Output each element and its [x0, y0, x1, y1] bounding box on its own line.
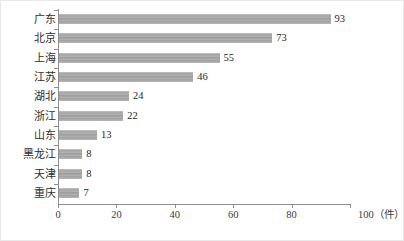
x-axis-tick-label: 40	[170, 209, 181, 221]
bar-value-label: 46	[197, 71, 208, 83]
category-label: 黑龙江	[23, 148, 56, 160]
bar-value-label: 73	[276, 32, 287, 44]
category-label: 天津	[34, 168, 56, 180]
x-axis-tick	[233, 204, 234, 208]
bar	[59, 33, 272, 43]
category-label: 江苏	[34, 71, 56, 83]
plot-area: 100（件） 020406080广东93北京73上海55江苏46湖北24浙江22…	[1, 1, 404, 241]
y-axis-tick	[54, 126, 58, 127]
bar-value-label: 22	[127, 110, 138, 122]
x-axis-tick	[58, 204, 59, 208]
y-axis-tick	[54, 87, 58, 88]
x-axis-tick-label: 60	[228, 209, 239, 221]
category-label: 广东	[34, 13, 56, 25]
x-axis-tick-label: 20	[111, 209, 122, 221]
category-label: 北京	[34, 32, 56, 44]
y-axis-tick	[54, 49, 58, 50]
x-axis-tick	[292, 204, 293, 208]
bar-value-label: 93	[335, 13, 346, 25]
x-axis-tick	[116, 204, 117, 208]
bar	[59, 14, 331, 24]
category-label: 上海	[34, 52, 56, 64]
bar	[59, 91, 129, 101]
bar-value-label: 8	[86, 168, 91, 180]
y-axis-tick	[54, 145, 58, 146]
x-axis-unit-label: 100（件）	[358, 209, 404, 221]
bar	[59, 149, 82, 159]
x-axis-line	[58, 204, 350, 205]
category-label: 湖北	[34, 90, 56, 102]
category-label: 山东	[34, 129, 56, 141]
y-axis-tick	[54, 184, 58, 185]
y-axis-tick	[54, 29, 58, 30]
bar	[59, 53, 220, 63]
x-axis-tick-label: 0	[55, 209, 60, 221]
bar-value-label: 13	[101, 129, 112, 141]
bar-value-label: 8	[86, 148, 91, 160]
bar	[59, 111, 123, 121]
bar-value-label: 7	[83, 187, 88, 199]
category-label: 重庆	[34, 187, 56, 199]
category-label: 浙江	[34, 110, 56, 122]
bar	[59, 169, 82, 179]
bar	[59, 130, 97, 140]
bar-value-label: 55	[224, 52, 235, 64]
x-axis-tick-label: 80	[286, 209, 297, 221]
bar	[59, 72, 193, 82]
y-axis-tick	[54, 10, 58, 11]
x-axis-tick	[175, 204, 176, 208]
x-axis-tick	[350, 204, 351, 208]
y-axis-tick	[54, 165, 58, 166]
bar	[59, 188, 79, 198]
y-axis-tick	[54, 107, 58, 108]
bar-value-label: 24	[133, 90, 144, 102]
y-axis-tick	[54, 68, 58, 69]
bar-chart: 100（件） 020406080广东93北京73上海55江苏46湖北24浙江22…	[0, 0, 404, 241]
